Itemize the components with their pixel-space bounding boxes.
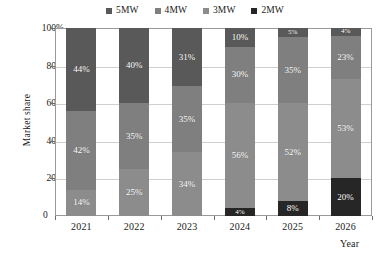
x-axis-tick-mark	[161, 216, 162, 220]
bar-segment-value-label: 35%	[284, 66, 301, 75]
bar-segment-2mw[interactable]: 4%	[225, 208, 255, 216]
bar-segment-value-label: 34%	[179, 180, 196, 189]
bar-stack[interactable]: 40%35%25%	[119, 28, 149, 216]
bar-segment-value-label: 31%	[179, 53, 196, 62]
bar-segment-value-label: 44%	[73, 65, 90, 74]
legend-swatch-3mw	[203, 8, 209, 14]
legend-label-3mw: 3MW	[213, 6, 235, 16]
bar-stack[interactable]: 4%23%53%20%	[331, 28, 361, 216]
x-axis-tick-mark	[108, 216, 109, 220]
stacked-bar-chart: 5MW 4MW 3MW 2MW Market share 100%80%60%4…	[0, 0, 390, 265]
legend-item-5mw[interactable]: 5MW	[106, 6, 138, 16]
x-axis-tick-mark	[266, 216, 267, 220]
bar-segment-4mw[interactable]: 35%	[119, 103, 149, 169]
bar-segment-5mw[interactable]: 31%	[172, 28, 202, 86]
bar-segment-4mw[interactable]: 23%	[331, 36, 361, 79]
legend-swatch-2mw	[251, 8, 257, 14]
bar-segment-4mw[interactable]: 30%	[225, 47, 255, 103]
bar-segment-value-label: 23%	[337, 53, 354, 62]
bar-segment-value-label: 35%	[126, 132, 143, 141]
bar-stack[interactable]: 5%35%52%8%	[278, 28, 308, 216]
bar-stack[interactable]: 10%30%56%4%	[225, 28, 255, 216]
bar-segment-5mw[interactable]: 44%	[66, 28, 96, 111]
bar-segment-value-label: 35%	[179, 115, 196, 124]
bar-segment-value-label: 56%	[232, 151, 249, 160]
bar-segment-value-label: 42%	[73, 146, 90, 155]
bar-group: 40%35%25%	[108, 28, 161, 216]
x-axis-tick-mark	[319, 216, 320, 220]
bar-group: 44%42%14%	[55, 28, 108, 216]
bar-segment-value-label: 20%	[337, 193, 354, 202]
bar-group: 10%30%56%4%	[213, 28, 266, 216]
x-axis-tick-label: 2026	[319, 221, 372, 232]
bar-segment-3mw[interactable]: 53%	[331, 79, 361, 179]
bar-segment-3mw[interactable]: 52%	[278, 103, 308, 201]
bar-group: 4%23%53%20%	[319, 28, 372, 216]
legend-swatch-4mw	[155, 8, 161, 14]
y-axis-zero-label: 0	[43, 210, 48, 220]
x-axis-tick-mark	[214, 216, 215, 220]
bar-series-container: 44%42%14%40%35%25%31%35%34%10%30%56%4%5%…	[55, 28, 372, 216]
bar-segment-value-label: 25%	[126, 188, 143, 197]
x-axis-tick-label: 2025	[266, 221, 319, 232]
bar-segment-2mw[interactable]: 20%	[331, 178, 361, 216]
x-axis-tick-label: 2021	[55, 221, 108, 232]
x-axis-tick-label: 2022	[108, 221, 161, 232]
bar-segment-4mw[interactable]: 42%	[66, 111, 96, 190]
bar-segment-value-label: 8%	[287, 204, 299, 213]
x-axis-title: Year	[340, 238, 359, 249]
bar-segment-value-label: 52%	[284, 148, 301, 157]
bar-segment-4mw[interactable]: 35%	[278, 37, 308, 103]
x-axis-tick-label: 2023	[161, 221, 214, 232]
legend-label-2mw: 2MW	[261, 6, 283, 16]
bar-segment-3mw[interactable]: 34%	[172, 152, 202, 216]
legend-item-3mw[interactable]: 3MW	[203, 6, 235, 16]
bar-segment-value-label: 53%	[337, 124, 354, 133]
legend-label-4mw: 4MW	[165, 6, 187, 16]
bar-segment-5mw[interactable]: 10%	[225, 28, 255, 47]
bar-segment-value-label: 10%	[232, 33, 249, 42]
legend-swatch-5mw	[106, 8, 112, 14]
legend-item-4mw[interactable]: 4MW	[155, 6, 187, 16]
x-axis-labels: 202120222023202420252026	[55, 221, 372, 232]
bar-segment-value-label: 5%	[288, 29, 297, 36]
x-axis-tick-mark	[372, 216, 373, 220]
legend-item-2mw[interactable]: 2MW	[251, 6, 283, 16]
bar-segment-value-label: 14%	[73, 198, 90, 207]
legend-label-5mw: 5MW	[116, 6, 138, 16]
bar-segment-value-label: 30%	[232, 70, 249, 79]
bar-segment-value-label: 4%	[235, 209, 244, 216]
bar-group: 5%35%52%8%	[266, 28, 319, 216]
bar-segment-5mw[interactable]: 4%	[331, 28, 361, 36]
bar-group: 31%35%34%	[161, 28, 214, 216]
bar-segment-2mw[interactable]: 8%	[278, 201, 308, 216]
x-axis-tick-mark	[55, 216, 56, 220]
chart-legend: 5MW 4MW 3MW 2MW	[0, 6, 390, 16]
bar-segment-3mw[interactable]: 14%	[66, 190, 96, 216]
bar-stack[interactable]: 44%42%14%	[66, 28, 96, 216]
x-axis-tick-label: 2024	[213, 221, 266, 232]
bar-segment-value-label: 4%	[341, 28, 350, 35]
y-axis-title: Market share	[22, 94, 32, 146]
bar-segment-3mw[interactable]: 56%	[225, 103, 255, 208]
bar-stack[interactable]: 31%35%34%	[172, 28, 202, 216]
bar-segment-4mw[interactable]: 35%	[172, 86, 202, 152]
bar-segment-5mw[interactable]: 40%	[119, 28, 149, 103]
bar-segment-value-label: 40%	[126, 61, 143, 70]
bar-segment-3mw[interactable]: 25%	[119, 169, 149, 216]
bar-segment-5mw[interactable]: 5%	[278, 28, 308, 37]
